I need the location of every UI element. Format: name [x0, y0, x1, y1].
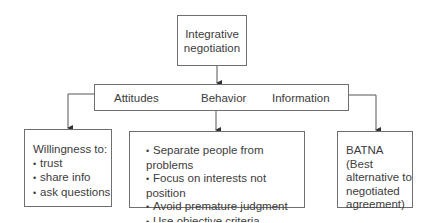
label-behavior: Behavior: [201, 92, 246, 104]
behavior-item: Separate people from problems: [146, 144, 304, 172]
behavior-item: Avoid premature judgment: [146, 200, 304, 215]
attitudes-item: trust: [33, 157, 111, 172]
attitudes-item: share info: [33, 171, 111, 186]
batna-line: alternative to: [346, 171, 412, 185]
categories-box: Attitudes Behavior Information: [94, 84, 349, 111]
batna-line: negotiated: [346, 185, 412, 199]
behavior-box: Separate people from problems Focus on i…: [129, 131, 305, 208]
behavior-item: Focus on interests not position: [146, 172, 304, 200]
attitudes-heading: Willingness to:: [33, 143, 111, 157]
label-information: Information: [272, 92, 330, 104]
top-line-1: Integrative: [178, 28, 246, 42]
information-box: BATNA (Best alternative to negotiated ag…: [337, 131, 413, 208]
attitudes-item: ask questions: [33, 186, 111, 201]
label-attitudes: Attitudes: [114, 92, 159, 104]
integrative-negotiation-box: Integrative negotiation: [177, 15, 247, 66]
batna-line: BATNA (Best: [346, 144, 412, 171]
top-line-2: negotiation: [178, 42, 246, 56]
behavior-item: Use objective criteria: [146, 215, 304, 223]
attitudes-box: Willingness to: trust share info ask que…: [24, 129, 112, 207]
batna-line: agreement): [346, 198, 412, 212]
